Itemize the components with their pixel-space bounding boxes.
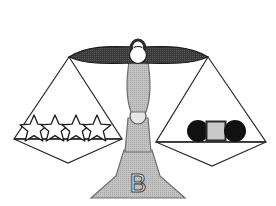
base-stand: B	[91, 150, 185, 198]
column-upper-shape	[127, 56, 150, 112]
square-item	[207, 122, 226, 141]
center-column-upper	[127, 56, 150, 112]
pivot-circle	[130, 47, 147, 64]
left-pan-dish	[14, 139, 122, 163]
right-pan-dish	[156, 142, 266, 166]
left-pan[interactable]	[14, 57, 122, 163]
scale-label-b: B	[130, 169, 147, 197]
balance-scale-drawing: B	[0, 0, 276, 206]
circle-item	[224, 120, 246, 142]
right-pan-contents	[187, 120, 246, 142]
right-pan[interactable]	[156, 57, 266, 166]
balance-scale-figure: 4 stars 2 circles and 1 square B	[0, 0, 276, 206]
